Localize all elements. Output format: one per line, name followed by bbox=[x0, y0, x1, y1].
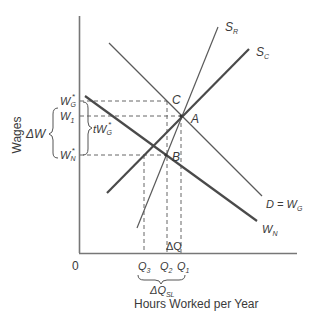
ytick-w1: W1 bbox=[60, 110, 74, 124]
ytick-wn: WN* bbox=[60, 146, 76, 162]
curve-sr bbox=[137, 27, 218, 228]
point-a-label: A bbox=[190, 112, 199, 126]
delta-q-label: ΔQ bbox=[166, 240, 182, 252]
curve-sc bbox=[107, 49, 249, 193]
point-b-dot bbox=[164, 153, 167, 156]
tax-wedge-label: tWG* bbox=[93, 120, 112, 136]
label-sr: SR bbox=[225, 20, 238, 35]
curve-demand bbox=[109, 43, 262, 196]
x-axis-title: Hours Worked per Year bbox=[134, 297, 259, 311]
labor-market-diagram: SR SC D = WG WN A B C WG* W1 WN* ΔW tWG*… bbox=[0, 0, 317, 312]
delta-w-label: ΔW bbox=[25, 127, 47, 141]
ytick-wg: WG* bbox=[60, 92, 76, 108]
delta-qsl-label: ΔQSL bbox=[149, 284, 175, 298]
label-sc: SC bbox=[256, 45, 270, 60]
label-demand: D = WG bbox=[266, 198, 303, 212]
xtick-q1: Q1 bbox=[177, 260, 190, 274]
point-a-dot bbox=[179, 114, 182, 117]
point-c-label: C bbox=[172, 93, 181, 107]
label-wn: WN bbox=[262, 223, 278, 237]
point-b-label: B bbox=[172, 150, 180, 164]
xtick-q3: Q3 bbox=[138, 260, 151, 274]
curve-wn bbox=[85, 96, 257, 221]
origin-label: 0 bbox=[72, 259, 79, 273]
delta-qsl-brace bbox=[138, 275, 185, 284]
tax-wedge-brace bbox=[83, 102, 92, 155]
y-axis-title: Wages bbox=[10, 117, 24, 154]
xtick-q2: Q2 bbox=[160, 260, 173, 274]
delta-w-brace bbox=[49, 108, 58, 158]
